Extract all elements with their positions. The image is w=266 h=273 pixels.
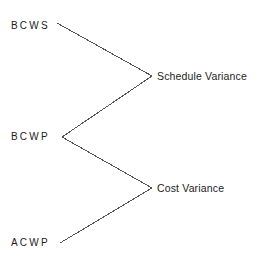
connector-bcws-to-schedule-variance xyxy=(57,23,152,76)
node-label-bcwp: BCWP xyxy=(11,132,50,142)
connector-bcwp-to-cost-variance xyxy=(62,137,152,188)
connector-bcwp-to-schedule-variance xyxy=(62,76,152,137)
variance-diagram: BCWS BCWP ACWP Schedule Variance Cost Va… xyxy=(0,0,266,273)
node-label-bcws: BCWS xyxy=(11,21,50,31)
node-label-acwp: ACWP xyxy=(11,238,50,248)
node-label-schedule-variance: Schedule Variance xyxy=(157,71,247,82)
node-label-cost-variance: Cost Variance xyxy=(157,183,224,194)
connector-acwp-to-cost-variance xyxy=(60,188,152,243)
